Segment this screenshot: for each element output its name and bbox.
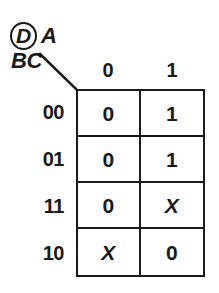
kmap-cell-r1-c0: 0 xyxy=(78,137,141,183)
kmap-cell-r0-c0: 0 xyxy=(78,91,141,137)
row-header-00: 00 xyxy=(14,89,70,136)
kmap-corner-header: D A BC xyxy=(0,0,80,92)
karnaugh-map-diagram: D A BC 0 1 00 01 11 10 0 1 0 1 0 X X 0 xyxy=(0,0,219,293)
row-header-11: 11 xyxy=(14,183,70,230)
kmap-cell-r3-c1: 0 xyxy=(141,229,204,275)
kmap-grid: 0 1 0 1 0 X X 0 xyxy=(76,89,205,277)
column-header-1: 1 xyxy=(140,60,204,80)
kmap-cell-r3-c0: X xyxy=(78,229,141,275)
row-variable-label: BC xyxy=(11,48,42,73)
kmap-cell-r2-c1: X xyxy=(141,183,204,229)
kmap-cell-r1-c1: 1 xyxy=(141,137,204,183)
circled-variable-d-label: D xyxy=(16,25,31,46)
kmap-cell-r2-c0: 0 xyxy=(78,183,141,229)
circled-variable-d: D xyxy=(10,22,37,50)
row-header-10: 10 xyxy=(14,230,70,277)
row-header-01: 01 xyxy=(14,136,70,183)
kmap-cell-r0-c1: 1 xyxy=(141,91,204,137)
column-variable-label: A xyxy=(41,23,57,48)
column-header-0: 0 xyxy=(76,60,140,80)
